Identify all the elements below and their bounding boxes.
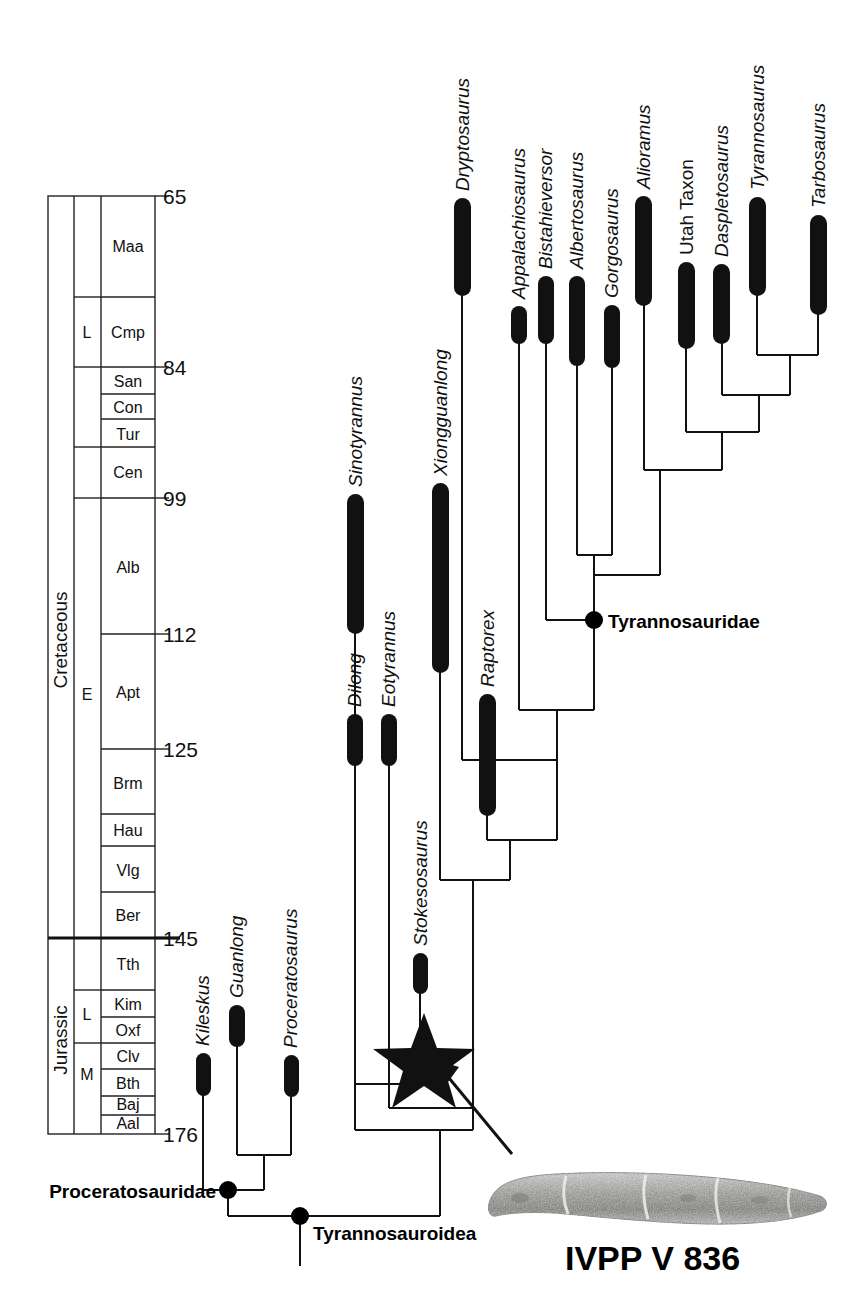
node-dot-proceratosauridae [219, 1181, 237, 1199]
range-bar-daspletosaurus [713, 264, 730, 344]
range-bar-tyrannosaurus [749, 197, 766, 296]
stage-cen: Cen [113, 464, 142, 481]
taxon-label-bistahieversor: Bistahieversor [535, 148, 556, 269]
stage-con: Con [113, 399, 142, 416]
epoch-label-late-cretaceous: L [83, 324, 92, 341]
taxon-label-sinotyrannus: Sinotyrannus [345, 376, 366, 487]
taxon-label-kileskus: Kileskus [192, 975, 213, 1046]
clade-labels: Proceratosauridae Tyrannosauroidea Tyran… [49, 611, 760, 1244]
range-bar-dilong [347, 714, 363, 766]
taxon-label-albertosaurus: Albertosaurus [566, 151, 587, 270]
stage-tth: Tth [116, 956, 139, 973]
taxon-label-stokesosaurus: Stokesosaurus [410, 820, 431, 946]
timescale-column: 65 84 99 112 125 145 176 Cretaceous Jura… [48, 185, 198, 1146]
stage-hau: Hau [113, 822, 142, 839]
fossil-photograph [489, 1173, 827, 1225]
stage-alb: Alb [116, 559, 139, 576]
tree-branches [203, 290, 818, 1266]
clade-label-tyrannosauroidea: Tyrannosauroidea [313, 1223, 477, 1244]
taxon-label-daspletosaurus: Daspletosaurus [711, 124, 732, 257]
period-label-cretaceous: Cretaceous [50, 591, 71, 688]
age-tick-176: 176 [163, 1123, 198, 1146]
range-bar-appalachiosaurus [511, 306, 527, 344]
age-tick-112: 112 [163, 623, 196, 646]
taxon-labels: Kileskus Guanlong Proceratosaurus Sinoty… [192, 64, 829, 1048]
taxon-label-guanlong: Guanlong [226, 915, 247, 998]
age-tick-99: 99 [163, 487, 186, 510]
stage-apt: Apt [116, 684, 141, 701]
node-dot-tyrannosauridae [585, 611, 603, 629]
taxon-label-tarbosaurus: Tarbosaurus [808, 103, 829, 208]
taxon-label-alioramus: Alioramus [633, 104, 654, 190]
stage-aal: Aal [116, 1115, 139, 1132]
range-bar-tarbosaurus [810, 215, 827, 315]
taxon-label-tyrannosaurus: Tyrannosaurus [747, 64, 768, 190]
range-bar-proceratosaurus [284, 1055, 299, 1097]
clade-label-tyrannosauridae: Tyrannosauridae [608, 611, 760, 632]
period-label-jurassic: Jurassic [50, 1005, 71, 1075]
epoch-label-early-cretaceous: E [82, 686, 93, 703]
range-bar-utah-taxon [678, 262, 695, 349]
range-bar-albertosaurus [569, 276, 585, 366]
taxon-label-xiongguanlong: Xiongguanlong [430, 349, 451, 477]
clade-label-proceratosauridae: Proceratosauridae [49, 1181, 216, 1202]
stage-vlg: Vlg [116, 862, 139, 879]
stage-clv: Clv [116, 1048, 139, 1065]
range-bar-kileskus [196, 1053, 211, 1096]
epoch-label-late-jurassic: L [83, 1006, 92, 1023]
taxon-label-utah-taxon: Utah Taxon [676, 159, 697, 255]
range-bar-gorgosaurus [604, 305, 620, 368]
node-dot-tyrannosauroidea [291, 1207, 309, 1225]
taxon-label-eotyrannus: Eotyrannus [378, 610, 399, 707]
stage-maa: Maa [112, 238, 143, 255]
stage-cmp: Cmp [111, 324, 145, 341]
taxon-label-appalachiosaurus: Appalachiosaurus [508, 147, 529, 300]
range-bar-dryptosaurus [454, 198, 471, 296]
taxon-label-dilong: Dilong [344, 653, 365, 707]
age-tick-84: 84 [163, 356, 187, 379]
range-bar-stokesosaurus [413, 953, 428, 994]
figure-canvas: 65 84 99 112 125 145 176 Cretaceous Jura… [0, 0, 854, 1291]
range-bar-eotyrannus [381, 714, 397, 766]
taxon-label-raptorex: Raptorex [477, 608, 498, 687]
range-bar-sinotyrannus [347, 494, 364, 634]
age-tick-65: 65 [163, 185, 186, 208]
stage-oxf: Oxf [116, 1022, 141, 1039]
specimen-label: IVPP V 836 [565, 1239, 740, 1277]
epoch-label-middle-jurassic: M [80, 1066, 93, 1083]
range-bar-raptorex [479, 694, 496, 816]
stage-ber: Ber [116, 907, 142, 924]
stage-bth: Bth [116, 1075, 140, 1092]
taxon-label-dryptosaurus: Dryptosaurus [452, 78, 473, 191]
stage-brm: Brm [113, 775, 142, 792]
tree-figure-svg: 65 84 99 112 125 145 176 Cretaceous Jura… [0, 0, 854, 1291]
range-bar-alioramus [635, 196, 652, 306]
stage-baj: Baj [116, 1096, 139, 1113]
stage-tur: Tur [116, 426, 140, 443]
stage-san: San [114, 373, 142, 390]
range-bar-guanlong [229, 1005, 245, 1047]
range-bar-xiongguanlong [432, 483, 449, 673]
age-tick-125: 125 [163, 738, 198, 761]
stage-kim: Kim [114, 996, 142, 1013]
taxon-label-proceratosaurus: Proceratosaurus [280, 908, 301, 1048]
taxon-label-gorgosaurus: Gorgosaurus [601, 188, 622, 298]
range-bar-bistahieversor [538, 276, 554, 344]
age-tick-145: 145 [163, 927, 198, 950]
